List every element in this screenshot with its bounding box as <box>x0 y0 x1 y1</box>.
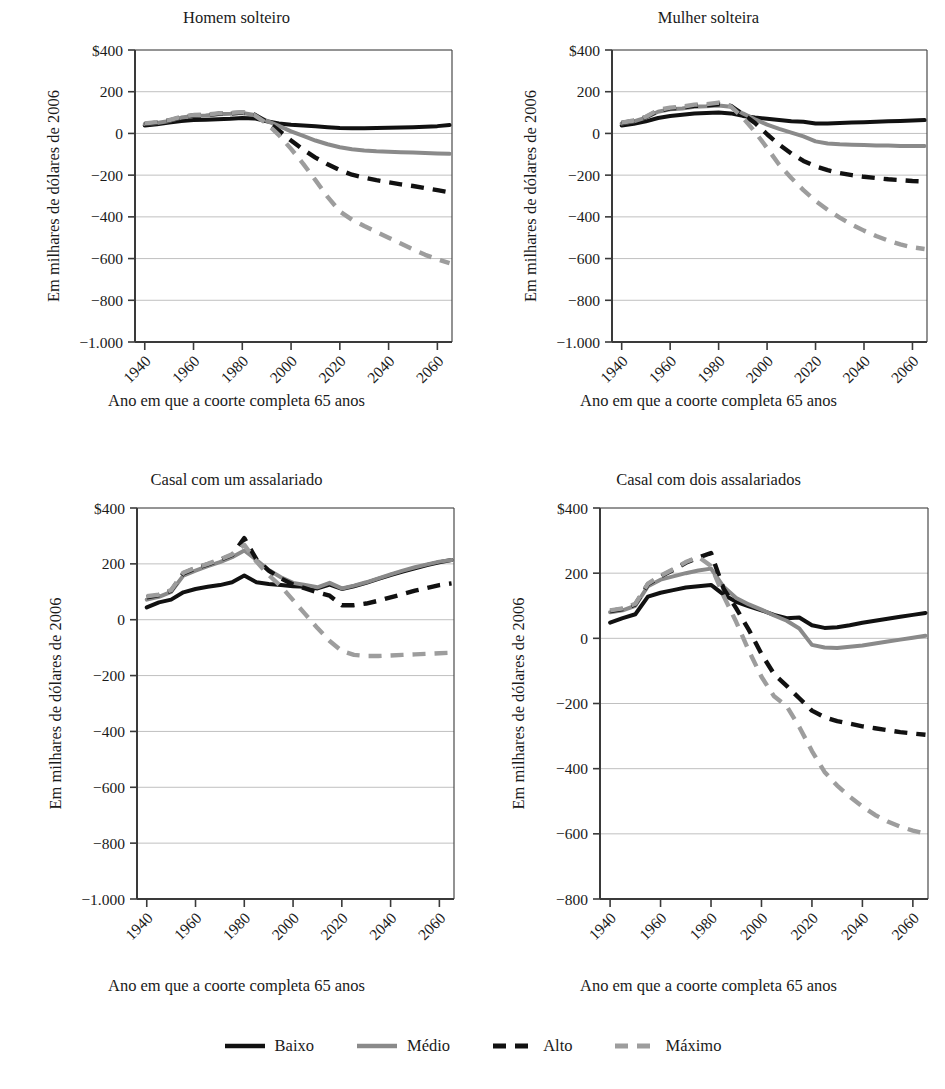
legend-swatch-maximo-icon <box>614 1039 656 1053</box>
y-tick-label: −600 <box>556 825 588 842</box>
x-axis-ticks: 1940196019802000202020402060 <box>585 899 922 943</box>
chart-legend: BaixoMédioAltoMáximo <box>0 1038 945 1055</box>
figure-multi-panel-chart: Homem solteiroAno em que a coorte comple… <box>0 0 945 1089</box>
legend-item-alto[interactable]: Alto <box>492 1038 572 1055</box>
legend-label-medio: Médio <box>407 1038 450 1055</box>
x-tick-label: 1940 <box>585 909 619 943</box>
data-series-group <box>610 553 925 834</box>
legend-swatch-medio-icon <box>356 1039 398 1053</box>
y-axis-ticks: $4002000−200−400−600−800 <box>556 500 600 908</box>
y-tick-label: −800 <box>93 835 125 852</box>
legend-item-baixo[interactable]: Baixo <box>224 1038 314 1055</box>
x-tick-label: 1960 <box>171 909 205 943</box>
y-tick-label: −1.000 <box>81 891 125 908</box>
x-tick-label: 1940 <box>122 909 156 943</box>
x-tick-label: 2020 <box>787 909 821 943</box>
y-tick-label: 0 <box>117 611 125 628</box>
x-tick-label: 2000 <box>268 909 302 943</box>
y-tick-label: −600 <box>93 779 125 796</box>
x-tick-label: 1960 <box>636 909 670 943</box>
legend-label-alto: Alto <box>543 1038 572 1055</box>
x-tick-label: 1980 <box>686 909 720 943</box>
plot-area-casal-com-dois-assalariados: $4002000−200−400−600−8001940196019802000… <box>472 0 945 1089</box>
legend-label-baixo: Baixo <box>275 1038 314 1055</box>
y-tick-label: $400 <box>94 500 125 517</box>
x-tick-label: 1980 <box>219 909 253 943</box>
axis-frame <box>137 508 454 899</box>
y-axis-ticks: $4002000−200−400−600−800−1.000 <box>81 500 137 908</box>
x-tick-label: 2060 <box>888 909 922 943</box>
legend-item-maximo[interactable]: Máximo <box>614 1038 721 1055</box>
series-line-maximo <box>147 545 452 656</box>
legend-item-medio[interactable]: Médio <box>356 1038 450 1055</box>
y-tick-label: −400 <box>93 723 125 740</box>
x-axis-ticks: 1940196019802000202020402060 <box>122 899 449 943</box>
y-tick-label: −200 <box>556 695 588 712</box>
x-tick-label: 2060 <box>415 909 449 943</box>
x-tick-label: 2000 <box>737 909 771 943</box>
y-tick-label: −200 <box>93 667 125 684</box>
x-tick-label: 2040 <box>838 909 872 943</box>
y-tick-label: −800 <box>556 891 588 908</box>
series-line-maximo <box>610 557 925 834</box>
y-tick-label: 200 <box>102 555 126 572</box>
gridlines <box>137 508 454 843</box>
gridlines <box>600 508 928 834</box>
chart-panel-casal-com-dois-assalariados: Casal com dois assalariadosAno em que a … <box>472 0 945 1089</box>
y-axis-label: Em milhares de dólares de 2006 <box>46 597 65 809</box>
data-series-group <box>147 538 452 656</box>
y-tick-label: 200 <box>565 565 589 582</box>
legend-swatch-baixo-icon <box>224 1039 266 1053</box>
legend-swatch-alto-icon <box>492 1039 534 1053</box>
series-line-medio <box>610 569 925 649</box>
series-line-baixo <box>610 585 925 628</box>
x-tick-label: 2040 <box>366 909 400 943</box>
y-tick-label: 0 <box>580 630 588 647</box>
chart-panel-casal-com-um-assalariado: Casal com um assalariadoAno em que a coo… <box>0 0 473 1089</box>
y-axis-label: Em milhares de dólares de 2006 <box>509 597 528 809</box>
legend-label-maximo: Máximo <box>665 1038 721 1055</box>
y-tick-label: $400 <box>557 500 588 517</box>
x-tick-label: 2020 <box>317 909 351 943</box>
y-tick-label: −400 <box>556 760 588 777</box>
plot-area-casal-com-um-assalariado: $4002000−200−400−600−800−1.0001940196019… <box>0 0 473 1089</box>
